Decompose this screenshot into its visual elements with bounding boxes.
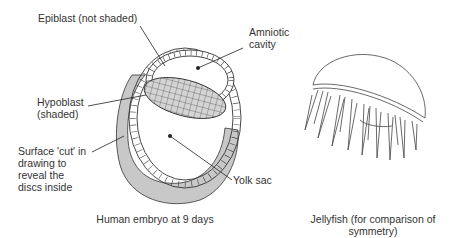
label-cut-3: reveal the	[18, 169, 64, 182]
label-cut-4: discs inside	[18, 181, 72, 194]
label-cut-2: drawing to	[18, 157, 66, 170]
caption-embryo: Human embryo at 9 days	[70, 213, 240, 226]
caption-jellyfish-1: Jellyfish (for comparison of	[293, 213, 451, 226]
label-amniotic-cavity-2: cavity	[249, 38, 276, 51]
label-cut-1: Surface 'cut' in	[18, 145, 86, 158]
caption-jellyfish-2: symmetry)	[293, 225, 451, 238]
label-epiblast: Epiblast (not shaded)	[38, 12, 137, 25]
label-amniotic-cavity-1: Amniotic	[249, 26, 289, 39]
label-hypoblast-2: (shaded)	[37, 108, 78, 121]
label-hypoblast-1: Hypoblast	[37, 96, 84, 109]
label-yolk-sac: Yolk sac	[233, 174, 272, 187]
